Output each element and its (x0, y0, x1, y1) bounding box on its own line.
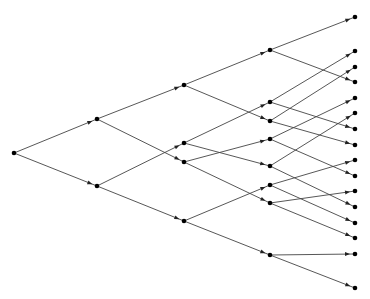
arrowhead-icon (91, 121, 93, 122)
edge-line (97, 85, 184, 119)
arrowhead-icon (264, 52, 266, 53)
node-dot (353, 236, 358, 241)
arrowhead-icon (349, 54, 351, 55)
arrowhead-icon (263, 252, 265, 253)
arrowhead-icon (264, 200, 266, 201)
node-dot (353, 49, 358, 54)
arrowhead-icon (349, 204, 351, 205)
node-dot (268, 119, 273, 124)
edge-line (270, 113, 355, 166)
arrowhead-icon (349, 116, 351, 117)
arrowhead-icon (178, 159, 180, 160)
node-dot (182, 160, 187, 165)
arrowhead-icon (90, 183, 92, 184)
arrowhead-icon (178, 145, 180, 146)
edge-line (270, 203, 355, 238)
arrowhead-icon (349, 70, 351, 71)
node-dot (268, 253, 273, 258)
edge-line (270, 17, 355, 50)
arrowhead-icon (348, 80, 350, 81)
arrowhead-icon (263, 140, 265, 141)
edge-line (270, 139, 355, 176)
node-dot (182, 219, 187, 224)
node-dot (353, 205, 358, 210)
arrowhead-icon (348, 19, 350, 20)
arrowhead-icon (264, 104, 266, 105)
node-dot (353, 127, 358, 132)
edge-line (184, 50, 270, 85)
node-dot (353, 143, 358, 148)
edge-line (270, 185, 355, 223)
node-dot (268, 100, 273, 105)
arrowhead-icon (263, 164, 265, 165)
edge-line (97, 143, 184, 186)
arrowhead-icon (348, 127, 350, 128)
node-dot (353, 252, 358, 257)
arrowhead-icon (264, 187, 266, 188)
node-layer (12, 15, 358, 291)
edge-line (184, 221, 270, 255)
arrowhead-icon (349, 220, 351, 221)
node-dot (182, 141, 187, 146)
node-dot (353, 96, 358, 101)
node-dot (353, 286, 358, 291)
node-dot (353, 65, 358, 70)
edge-line (14, 153, 97, 186)
node-dot (268, 183, 273, 188)
node-dot (353, 80, 358, 85)
tree-diagram (0, 0, 370, 299)
arrowhead-icon (348, 285, 350, 286)
node-dot (268, 48, 273, 53)
node-dot (268, 137, 273, 142)
node-dot (95, 117, 100, 122)
arrowhead-icon (348, 143, 350, 144)
node-dot (12, 151, 17, 156)
edge-line (184, 85, 270, 121)
node-dot (353, 158, 358, 163)
edge-line (97, 119, 184, 162)
edge-line (97, 186, 184, 221)
edge-line (184, 143, 270, 166)
node-dot (268, 201, 273, 206)
edge-line (184, 139, 270, 162)
node-dot (353, 15, 358, 20)
arrowhead-icon (177, 87, 179, 88)
arrowhead-icon (349, 100, 351, 101)
edge-line (184, 102, 270, 143)
node-dot (353, 174, 358, 179)
edge-line (270, 254, 355, 255)
edge-line (184, 162, 270, 203)
edge-line (270, 255, 355, 288)
arrowhead-icon (349, 235, 351, 236)
node-dot (268, 164, 273, 169)
node-dot (353, 111, 358, 116)
node-dot (353, 221, 358, 226)
edge-line (14, 119, 97, 153)
node-dot (353, 189, 358, 194)
node-dot (182, 83, 187, 88)
edge-layer (14, 17, 355, 288)
arrowhead-icon (264, 118, 266, 119)
edge-line (184, 185, 270, 221)
edge-line (270, 50, 355, 82)
node-dot (95, 184, 100, 189)
arrowhead-icon (349, 173, 351, 174)
arrowhead-icon (178, 218, 180, 219)
arrowhead-icon (348, 161, 350, 162)
